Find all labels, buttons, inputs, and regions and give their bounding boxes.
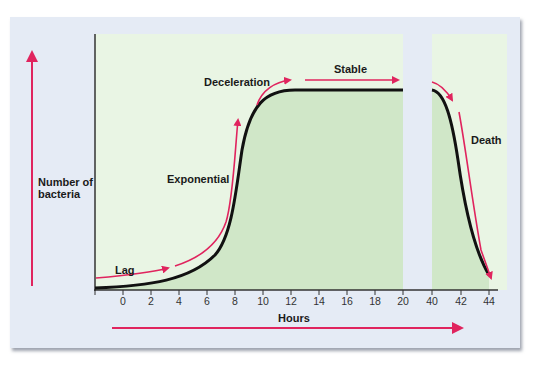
exponential-label: Exponential xyxy=(167,173,229,185)
x-axis-label: Hours xyxy=(278,312,310,324)
lag-label: Lag xyxy=(115,264,135,276)
tick-label: 44 xyxy=(483,295,495,307)
tick-label: 20 xyxy=(397,295,409,307)
tick-label: 18 xyxy=(369,295,381,307)
deceleration-label: Deceleration xyxy=(204,76,270,88)
tick-label: 40 xyxy=(426,295,438,307)
tick-label: 4 xyxy=(176,295,182,307)
y-axis-label-line2: bacteria xyxy=(38,188,81,200)
tick-label: 16 xyxy=(341,295,353,307)
tick-label: 14 xyxy=(313,295,325,307)
death-label: Death xyxy=(471,134,502,146)
tick-label: 0 xyxy=(120,295,126,307)
tick-label: 10 xyxy=(257,295,269,307)
y-axis-label-line1: Number of xyxy=(38,176,93,188)
tick-label: 12 xyxy=(285,295,297,307)
tick-label: 42 xyxy=(455,295,467,307)
stable-label: Stable xyxy=(334,63,367,75)
tick-label: 8 xyxy=(232,295,238,307)
x-axis-tick-labels: 0 2 4 6 8 10 12 14 16 18 20 40 42 44 xyxy=(120,295,495,307)
growth-curve-chart: 0 2 4 6 8 10 12 14 16 18 20 40 42 44 Num… xyxy=(0,0,534,369)
tick-label: 6 xyxy=(204,295,210,307)
tick-label: 2 xyxy=(148,295,154,307)
